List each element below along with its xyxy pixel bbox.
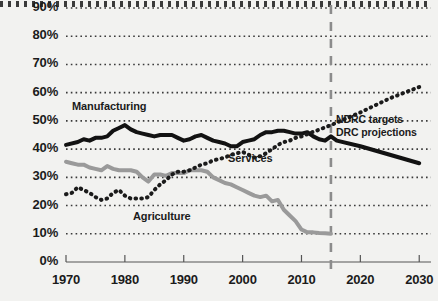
y-tick-label-10: 10% bbox=[2, 225, 58, 240]
x-tick-label-1980: 1980 bbox=[95, 272, 155, 287]
series-label-agriculture: Agriculture bbox=[133, 210, 191, 222]
y-tick-label-80: 80% bbox=[2, 27, 58, 42]
x-tick-label-2030: 2030 bbox=[389, 272, 438, 287]
y-tick-label-90: 90% bbox=[2, 0, 58, 14]
series-label-manufacturing: Manufacturing bbox=[72, 100, 146, 112]
y-tick-label-60: 60% bbox=[2, 84, 58, 99]
y-tick-label-30: 30% bbox=[2, 168, 58, 183]
annotation-ndrc-targets: NDRC targets bbox=[336, 113, 403, 125]
y-tick-label-70: 70% bbox=[2, 55, 58, 70]
x-tick-label-2010: 2010 bbox=[271, 272, 331, 287]
x-tick-label-1970: 1970 bbox=[36, 272, 96, 287]
y-tick-label-20: 20% bbox=[2, 197, 58, 212]
series-label-services: Services bbox=[228, 152, 272, 164]
y-tick-label-0: 0% bbox=[2, 253, 58, 268]
y-tick-label-50: 50% bbox=[2, 112, 58, 127]
y-tick-label-40: 40% bbox=[2, 140, 58, 155]
x-tick-label-2020: 2020 bbox=[330, 272, 390, 287]
annotation-drc-projections: DRC projections bbox=[336, 126, 417, 138]
axes bbox=[66, 255, 431, 262]
x-tick-label-1990: 1990 bbox=[154, 272, 214, 287]
x-tick-label-2000: 2000 bbox=[213, 272, 273, 287]
